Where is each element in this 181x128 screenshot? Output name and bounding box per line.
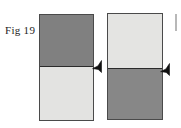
neighbor-figure-edge [175,14,177,31]
interface-arrow-right-glyph [160,63,170,76]
left-specimen [39,14,94,121]
right-specimen-top-band [108,14,162,68]
left-specimen-bottom-band [40,67,93,120]
figure-label: Fig 19 [5,24,35,37]
right-specimen [107,13,163,120]
interface-arrow-right-icon [160,62,170,75]
right-specimen-bottom-band [108,69,162,119]
interface-arrow-left-icon [92,59,102,72]
left-specimen-top-band [40,15,93,66]
interface-arrow-left-glyph [92,60,102,73]
figure-canvas: Fig 19 [0,0,181,128]
